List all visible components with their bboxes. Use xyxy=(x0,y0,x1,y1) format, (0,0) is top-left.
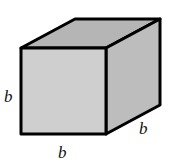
cube-diagram: b b b xyxy=(0,0,176,164)
width-label: b xyxy=(58,143,67,162)
height-label: b xyxy=(4,87,13,106)
depth-label: b xyxy=(139,119,148,138)
cube-front-face xyxy=(21,48,106,134)
